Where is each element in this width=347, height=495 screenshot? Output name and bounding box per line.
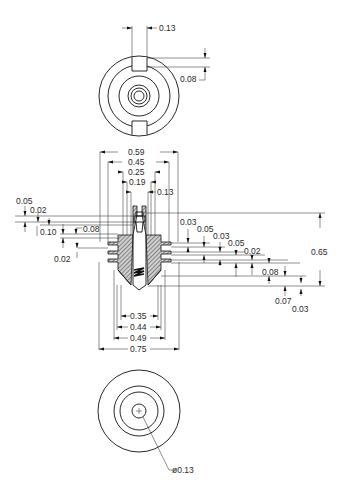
section-view: 0.59 0.45 0.25 0.19 0.13 0.05 0.02 (15, 147, 328, 354)
dim-0-45: 0.45 (128, 157, 145, 167)
overall-height-label: 0.65 (311, 247, 328, 257)
dim-0-13: 0.13 (157, 187, 174, 197)
dim-0-49: 0.49 (130, 333, 147, 343)
top-view: 0.13 0.08 (99, 23, 210, 136)
bottom-view: ø0.13 (98, 370, 194, 475)
dim-0-59: 0.59 (128, 147, 145, 157)
technical-drawing: 0.13 0.08 (0, 0, 347, 495)
dim-0-19: 0.19 (129, 177, 146, 187)
dim-0-75: 0.75 (130, 344, 147, 354)
dim-right-0-03c: 0.03 (292, 304, 309, 314)
dim-0-25: 0.25 (128, 167, 145, 177)
dim-right-0-05b: 0.05 (228, 238, 245, 248)
dim-right-0-07: 0.07 (275, 296, 292, 306)
dim-0-35: 0.35 (130, 311, 147, 321)
hole-diameter-label: ø0.13 (172, 465, 194, 475)
dim-left-0-02a: 0.02 (30, 205, 47, 215)
slot-depth-label: 0.08 (180, 74, 197, 84)
dim-right-0-03a: 0.03 (180, 217, 197, 227)
dim-right-0-02: 0.02 (244, 246, 261, 256)
dim-0-44: 0.44 (130, 322, 147, 332)
slot-width-label: 0.13 (159, 23, 176, 33)
dim-left-0-10: 0.10 (40, 227, 57, 237)
dim-right-0-08: 0.08 (262, 267, 279, 277)
dim-left-0-08: 0.08 (83, 224, 100, 234)
dim-left-0-02b: 0.02 (54, 254, 71, 264)
dim-right-0-05a: 0.05 (197, 224, 214, 234)
